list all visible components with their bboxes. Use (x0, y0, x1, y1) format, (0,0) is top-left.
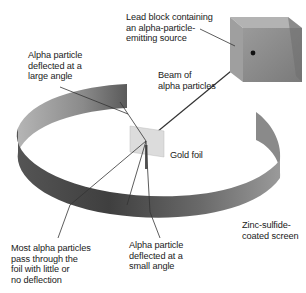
source-aperture (251, 51, 256, 56)
label-small-angle: Alpha particle deflected at a small angl… (129, 240, 183, 272)
label-most-pass: Most alpha particles pass through the fo… (11, 243, 91, 285)
label-lead-block: Lead block containing an alpha-particle-… (126, 12, 213, 44)
screen-back-wall (18, 84, 127, 152)
label-screen: Zinc-sulfide- coated screen (242, 220, 298, 241)
label-beam: Beam of alpha particles (158, 70, 216, 91)
label-large-angle: Alpha particle deflected at a large angl… (28, 50, 82, 82)
label-gold-foil: Gold foil (170, 150, 203, 161)
rutherford-diagram: Lead block containing an alpha-particle-… (0, 0, 306, 293)
lead-block (230, 17, 302, 82)
